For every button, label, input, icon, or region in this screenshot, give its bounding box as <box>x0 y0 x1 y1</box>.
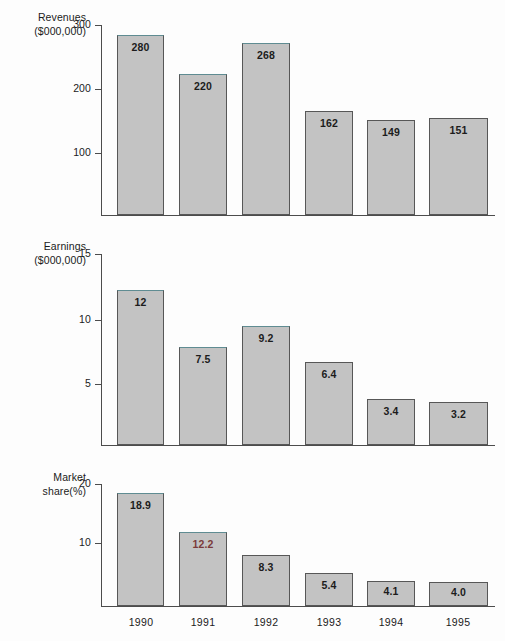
bar-label-revenues-1992: 268 <box>242 49 290 61</box>
bar-label-earnings-1991: 7.5 <box>179 353 227 365</box>
revenues-y-axis-line <box>101 25 102 216</box>
x-axis-label-1994: 1994 <box>362 616 420 628</box>
bar-revenues-1990 <box>117 35 164 215</box>
bar-label-market-share-1995: 4.0 <box>429 586 488 598</box>
x-axis-label-1991: 1991 <box>174 616 232 628</box>
revenues-tick-200 <box>95 89 101 90</box>
market-share-tick-label-20: 20 <box>55 478 91 489</box>
bar-revenues-1992 <box>242 43 290 215</box>
revenues-tick-label-200: 200 <box>55 83 91 94</box>
earnings-x-axis-line <box>101 445 495 446</box>
revenues-tick-label-300: 300 <box>55 19 91 30</box>
x-axis-label-1990: 1990 <box>112 616 170 628</box>
bar-label-earnings-1990: 12 <box>117 296 164 308</box>
bar-label-earnings-1993: 6.4 <box>305 368 353 380</box>
revenues-tick-label-100: 100 <box>55 147 91 158</box>
figure-canvas: Revenues ($000,000) 300 200 100 280 220 … <box>0 0 505 641</box>
bar-label-earnings-1994: 3.4 <box>367 405 415 417</box>
market-share-tick-label-10: 10 <box>55 537 91 548</box>
market-share-tick-20 <box>95 484 101 485</box>
revenues-x-axis-line <box>101 215 495 216</box>
revenues-tick-300 <box>95 25 101 26</box>
bar-label-revenues-1991: 220 <box>179 80 227 92</box>
bar-label-market-share-1994: 4.1 <box>367 585 415 597</box>
bar-label-market-share-1993: 5.4 <box>305 579 353 591</box>
market-share-y-axis-line <box>101 484 102 607</box>
bar-revenues-1991 <box>179 74 227 215</box>
bar-label-market-share-1992: 8.3 <box>242 561 290 573</box>
earnings-tick-label-15: 15 <box>55 248 91 259</box>
earnings-tick-10 <box>95 320 101 321</box>
earnings-tick-label-10: 10 <box>55 314 91 325</box>
bar-label-earnings-1995: 3.2 <box>429 408 488 420</box>
market-share-x-axis-line <box>101 606 495 607</box>
earnings-y-axis-line <box>101 254 102 446</box>
x-axis-label-1995: 1995 <box>429 616 487 628</box>
earnings-tick-15 <box>95 254 101 255</box>
x-axis-label-1993: 1993 <box>300 616 358 628</box>
chart-panel-market-share: Market share(%) 20 10 18.9 12.2 8.3 5.4 … <box>0 460 505 641</box>
earnings-tick-label-5: 5 <box>55 378 91 389</box>
bar-label-market-share-1991: 12.2 <box>179 538 227 550</box>
x-axis-label-1992: 1992 <box>237 616 295 628</box>
bar-label-earnings-1992: 9.2 <box>242 332 290 344</box>
bar-label-revenues-1995: 151 <box>429 124 488 136</box>
chart-panel-revenues: Revenues ($000,000) 300 200 100 280 220 … <box>0 0 505 230</box>
market-share-tick-10 <box>95 543 101 544</box>
revenues-tick-100 <box>95 153 101 154</box>
bar-label-revenues-1990: 280 <box>117 41 164 53</box>
bar-label-market-share-1990: 18.9 <box>117 499 164 511</box>
bar-label-revenues-1993: 162 <box>305 117 353 129</box>
earnings-tick-5 <box>95 384 101 385</box>
bar-label-revenues-1994: 149 <box>367 126 415 138</box>
chart-panel-earnings: Earnings ($000,000) 15 10 5 12 7.5 9.2 6… <box>0 230 505 460</box>
bar-earnings-1990 <box>117 290 164 445</box>
